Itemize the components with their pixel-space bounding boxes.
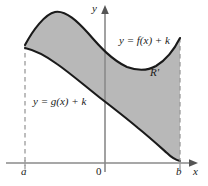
y-axis-arrowhead xyxy=(101,5,109,14)
figure-canvas xyxy=(0,0,208,186)
math-figure: y = f(x) + k y = g(x) + k R' a b 0 x y xyxy=(0,0,208,186)
x-axis-label: x xyxy=(193,166,198,177)
lower-curve-label: y = g(x) + k xyxy=(33,96,86,107)
x-tick-label-a: a xyxy=(21,166,27,177)
origin-label: 0 xyxy=(96,166,102,177)
region-label: R' xyxy=(150,67,159,78)
x-tick-label-b: b xyxy=(176,166,182,177)
y-axis-label: y xyxy=(92,3,97,14)
upper-curve-label: y = f(x) + k xyxy=(119,35,170,46)
